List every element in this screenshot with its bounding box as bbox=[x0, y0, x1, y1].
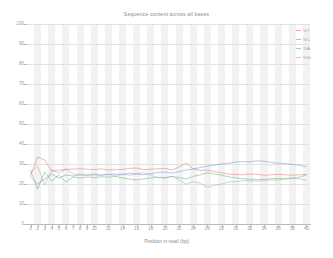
legend-item[interactable]: %A bbox=[296, 45, 330, 52]
series-layer bbox=[27, 24, 310, 224]
y-tick-mark bbox=[24, 24, 27, 25]
x-tick-mark bbox=[306, 225, 307, 228]
y-tick-mark bbox=[24, 184, 27, 185]
x-tick-mark bbox=[207, 225, 208, 228]
y-tick-label: 100 bbox=[2, 22, 24, 27]
x-tick-mark bbox=[38, 225, 39, 228]
y-tick-label: 70 bbox=[2, 82, 24, 87]
legend-color-swatch bbox=[296, 30, 301, 31]
legend-color-swatch bbox=[296, 48, 301, 49]
x-tick-mark bbox=[45, 225, 46, 228]
legend-item[interactable]: %C bbox=[296, 36, 330, 43]
y-tick-mark bbox=[24, 204, 27, 205]
x-tick-mark bbox=[236, 225, 237, 228]
y-tick-mark bbox=[24, 164, 27, 165]
x-tick-mark bbox=[31, 225, 32, 228]
chart-title: Sequence content across all bases bbox=[0, 11, 333, 17]
y-tick-label: 60 bbox=[2, 102, 24, 107]
legend-color-swatch bbox=[296, 39, 301, 40]
x-tick-mark bbox=[264, 225, 265, 228]
y-tick-mark bbox=[24, 224, 27, 225]
x-tick-mark bbox=[108, 225, 109, 228]
x-tick-mark bbox=[179, 225, 180, 228]
y-tick-mark bbox=[24, 64, 27, 65]
x-tick-mark bbox=[137, 225, 138, 228]
legend-item[interactable]: %G bbox=[296, 54, 330, 61]
legend-label: %C bbox=[303, 36, 310, 43]
x-tick-mark bbox=[52, 225, 53, 228]
sequence-content-chart: Sequence content across all bases 010203… bbox=[0, 0, 333, 258]
x-tick-mark bbox=[87, 225, 88, 228]
legend-label: %A bbox=[303, 45, 310, 52]
y-tick-label: 50 bbox=[2, 122, 24, 127]
x-tick-mark bbox=[66, 225, 67, 228]
y-tick-mark bbox=[24, 44, 27, 45]
legend-label: %G bbox=[303, 54, 310, 61]
y-tick-label: 0 bbox=[2, 222, 24, 227]
y-tick-mark bbox=[24, 84, 27, 85]
x-tick-mark bbox=[250, 225, 251, 228]
x-axis-label: Position in read (bp) bbox=[0, 238, 333, 244]
x-tick-mark bbox=[94, 225, 95, 228]
x-tick-mark bbox=[278, 225, 279, 228]
y-tick-mark bbox=[24, 104, 27, 105]
y-tick-label: 90 bbox=[2, 42, 24, 47]
legend-color-swatch bbox=[296, 57, 301, 58]
x-tick-mark bbox=[193, 225, 194, 228]
plot-area bbox=[27, 24, 310, 224]
x-tick-mark bbox=[292, 225, 293, 228]
x-tick-mark bbox=[165, 225, 166, 228]
y-tick-label: 10 bbox=[2, 202, 24, 207]
y-tick-mark bbox=[24, 144, 27, 145]
x-tick-mark bbox=[80, 225, 81, 228]
x-tick-mark bbox=[59, 225, 60, 228]
y-tick-mark bbox=[24, 124, 27, 125]
x-tick-mark bbox=[222, 225, 223, 228]
x-tick-mark bbox=[123, 225, 124, 228]
legend-label: %T bbox=[303, 27, 310, 34]
legend-item[interactable]: %T bbox=[296, 27, 330, 34]
y-tick-label: 80 bbox=[2, 62, 24, 67]
y-tick-label: 20 bbox=[2, 182, 24, 187]
x-axis-line bbox=[27, 224, 311, 225]
x-tick-mark bbox=[151, 225, 152, 228]
y-tick-label: 30 bbox=[2, 162, 24, 167]
x-tick-mark bbox=[73, 225, 74, 228]
y-tick-label: 40 bbox=[2, 142, 24, 147]
